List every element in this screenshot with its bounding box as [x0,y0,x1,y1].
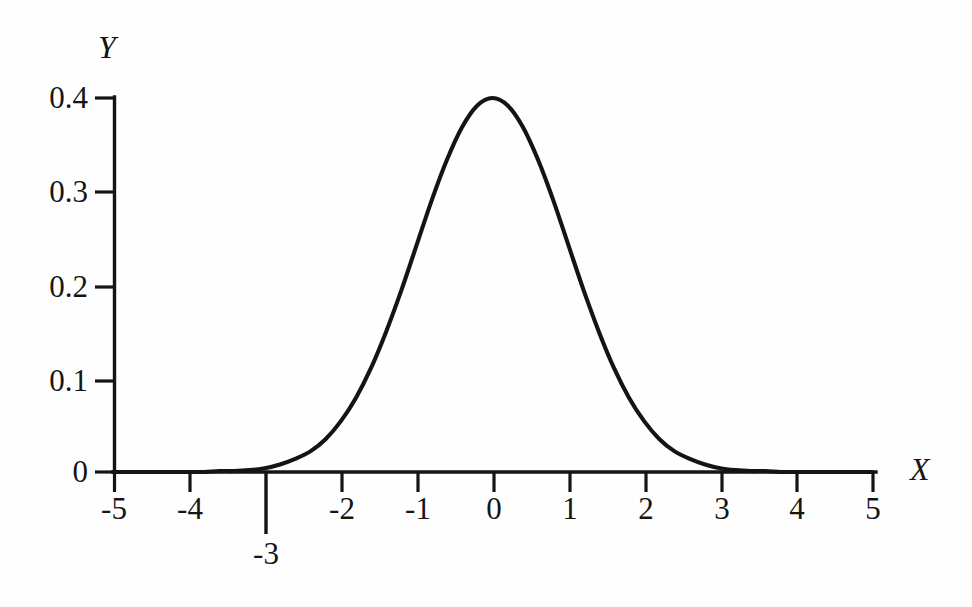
y-axis-ticks [95,98,115,472]
y-tick-label-0: 0 [0,456,88,487]
x-axis-ticks [115,472,874,492]
x-tick-label-4: 4 [757,493,837,524]
y-tick-label-0.3: 0.3 [0,176,88,207]
x-tick-label-0: 0 [454,493,534,524]
x-tick-label-1: 1 [530,493,610,524]
y-tick-label-0.4: 0.4 [0,82,88,113]
x-tick-label--4: -4 [150,493,230,524]
x-tick-label-2: 2 [606,493,686,524]
x-tick-label-5: 5 [833,493,913,524]
x-tick-label--1: -1 [378,493,458,524]
y-tick-label-0.2: 0.2 [0,271,88,302]
annotation-label-minus-3: -3 [226,538,306,569]
density-curve [113,98,872,472]
y-tick-label-0.1: 0.1 [0,365,88,396]
chart-page: 0.4 0.3 0.2 0.1 0 -5 -4 -2 -1 0 1 2 3 4 … [0,0,972,607]
x-tick-label--2: -2 [302,493,382,524]
x-tick-label--5: -5 [74,493,154,524]
x-axis-title: X [910,453,930,485]
y-axis-title: Y [98,31,116,63]
x-tick-label-3: 3 [682,493,762,524]
